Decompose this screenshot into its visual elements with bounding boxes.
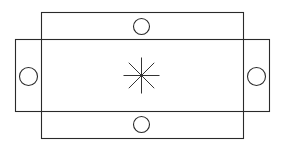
- right-circle: [248, 68, 266, 86]
- cross-shaped-diagram: [0, 0, 285, 145]
- bottom-circle: [134, 117, 150, 133]
- left-circle: [20, 68, 38, 86]
- top-circle: [134, 19, 150, 35]
- asterisk-icon: [124, 58, 160, 94]
